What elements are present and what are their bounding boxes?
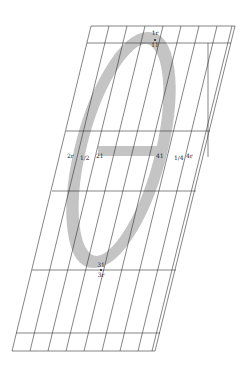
theta-crossbar bbox=[98, 146, 158, 156]
theta-construction-diagram: 1r 11 2r 1/2 21 41 1/4 4r 31 3r bbox=[0, 0, 244, 366]
label-left-frac: 1/2 bbox=[80, 154, 90, 161]
label-right-outer: 4r bbox=[186, 152, 193, 159]
label-bottom-upper: 31 bbox=[97, 261, 105, 268]
grid-v-line bbox=[120, 26, 199, 351]
grid-v-line bbox=[48, 26, 127, 351]
grid-v-line bbox=[30, 26, 109, 351]
label-right-frac: 1/4 bbox=[174, 154, 184, 161]
label-right-inner: 41 bbox=[156, 152, 164, 159]
label-top-upper: 1r bbox=[152, 29, 159, 36]
label-left-outer: 2r bbox=[67, 152, 74, 159]
label-bottom-lower: 3r bbox=[98, 271, 105, 278]
label-top-lower: 11 bbox=[151, 41, 159, 48]
construction-grid bbox=[12, 26, 235, 351]
anchor-dot bbox=[100, 269, 102, 271]
label-left-inner: 21 bbox=[96, 152, 104, 159]
anchor-dot bbox=[154, 39, 156, 41]
